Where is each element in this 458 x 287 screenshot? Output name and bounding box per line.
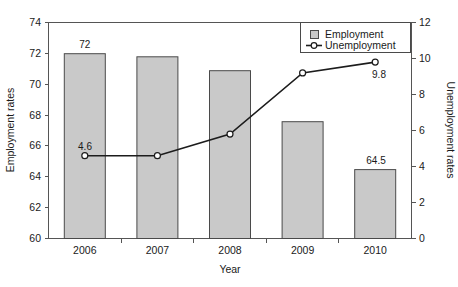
- right-tick-label-8: 8: [419, 88, 425, 100]
- right-tick-label-4: 4: [419, 160, 425, 172]
- left-axis-title: Employment rates: [4, 88, 16, 173]
- x-tick-label-2008: 2008: [218, 244, 242, 256]
- right-axis: 0 2 4 6 8 10 12 Unemployment rates: [412, 16, 458, 244]
- marker-2009: [300, 70, 306, 76]
- x-tick-label-2007: 2007: [146, 244, 170, 256]
- bottom-axis-title: Year: [219, 263, 241, 275]
- right-tick-label-10: 10: [419, 52, 431, 64]
- left-tick-label-62: 62: [29, 201, 41, 213]
- left-tick-label-74: 74: [29, 16, 41, 28]
- x-tick-label-2009: 2009: [291, 244, 315, 256]
- marker-2006: [82, 153, 88, 159]
- employment-bar-series: [64, 54, 395, 239]
- left-tick-label-72: 72: [29, 47, 41, 59]
- chart-container: 60 62 64 66 68 70 72 74 Employment rates…: [0, 0, 458, 287]
- employment-unemployment-chart: 60 62 64 66 68 70 72 74 Employment rates…: [0, 0, 458, 287]
- left-tick-label-68: 68: [29, 109, 41, 121]
- x-tick-label-2006: 2006: [73, 244, 97, 256]
- left-tick-label-64: 64: [29, 170, 41, 182]
- bar-label-2006: 72: [79, 39, 91, 50]
- line-label-2010: 9.8: [372, 69, 386, 80]
- left-tick-label-66: 66: [29, 139, 41, 151]
- right-axis-ticks: [412, 23, 416, 239]
- line-label-2006: 4.6: [78, 141, 92, 152]
- marker-2007: [154, 153, 160, 159]
- left-tick-label-60: 60: [29, 232, 41, 244]
- x-tick-label-2010: 2010: [364, 244, 388, 256]
- bar-2008: [210, 71, 251, 239]
- marker-2008: [227, 131, 233, 137]
- marker-2010: [372, 59, 378, 65]
- legend-marker-unemployment: [311, 43, 317, 49]
- right-tick-label-0: 0: [419, 232, 425, 244]
- right-tick-label-2: 2: [419, 196, 425, 208]
- bar-2007: [137, 57, 178, 239]
- right-axis-title: Unemployment rates: [445, 82, 457, 179]
- legend: Employment Unemployment: [301, 23, 411, 53]
- left-tick-label-70: 70: [29, 78, 41, 90]
- bar-label-2010: 64.5: [366, 155, 386, 166]
- bottom-axis: 2006 2007 2008 2009 2010 Year: [73, 239, 387, 276]
- bottom-axis-ticks: [121, 239, 339, 243]
- right-tick-label-6: 6: [419, 124, 425, 136]
- right-tick-label-12: 12: [419, 16, 431, 28]
- bar-2009: [282, 122, 323, 239]
- legend-swatch-employment: [311, 31, 319, 39]
- left-axis: 60 62 64 66 68 70 72 74 Employment rates: [4, 16, 49, 244]
- left-axis-ticks: [45, 23, 49, 239]
- legend-label-unemployment: Unemployment: [325, 39, 396, 51]
- bar-2010: [355, 170, 396, 239]
